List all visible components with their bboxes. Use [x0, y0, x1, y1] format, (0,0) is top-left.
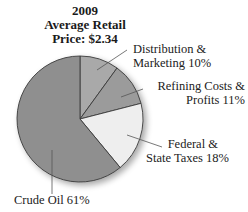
chart-title: 2009 Average Retail Price: $2.34: [30, 4, 140, 46]
label-crude-oil: Crude Oil 61%: [14, 193, 90, 207]
pie-slices: [17, 56, 143, 182]
title-year: 2009: [30, 4, 140, 18]
label-distribution-marketing: Distribution & Marketing 10%: [133, 42, 211, 70]
label-refining-costs-profits: Refining Costs & Profits 11%: [146, 79, 245, 107]
label-line: Federal &: [146, 137, 226, 151]
label-line: State Taxes 18%: [146, 151, 226, 165]
label-line: Refining Costs &: [146, 79, 245, 93]
label-line: Profits 11%: [146, 93, 245, 107]
label-line: Crude Oil 61%: [14, 193, 90, 207]
title-line-2: Average Retail: [30, 18, 140, 32]
label-line: Marketing 10%: [133, 56, 211, 70]
title-price: Price: $2.34: [30, 32, 140, 46]
label-federal-state-taxes: Federal & State Taxes 18%: [146, 137, 226, 165]
label-line: Distribution &: [133, 42, 211, 56]
